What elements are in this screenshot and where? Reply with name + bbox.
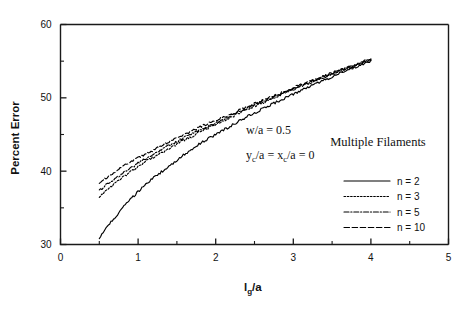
- data-curve: [99, 60, 371, 239]
- y-axis-title: Percent Error: [9, 101, 21, 175]
- legend-group: Multiple Filamentsn = 2n = 3n = 5n = 10: [330, 135, 426, 233]
- legend-title: Multiple Filaments: [330, 135, 426, 149]
- x-tick-label: 3: [291, 252, 297, 263]
- y-tick-label: 50: [40, 92, 52, 103]
- figure-container: 01234530405060 Multiple Filamentsn = 2n …: [0, 0, 457, 311]
- x-tick-label: 5: [446, 252, 452, 263]
- chart-canvas: 01234530405060 Multiple Filamentsn = 2n …: [0, 0, 457, 311]
- annotation-yc-xc: yc/a = xc/a = 0: [246, 148, 314, 163]
- annotation-w-over-a: w/a = 0.5: [246, 123, 291, 138]
- legend-entry-label: n = 10: [397, 222, 426, 233]
- x-tick-label: 2: [213, 252, 219, 263]
- legend-entry-label: n = 5: [397, 207, 420, 218]
- y-tick-label: 60: [40, 19, 52, 30]
- x-tick-label: 1: [135, 252, 141, 263]
- y-tick-label: 30: [40, 239, 52, 250]
- x-axis-title: lg/a: [244, 281, 262, 293]
- y-tick-label: 40: [40, 166, 52, 177]
- x-tick-label: 0: [58, 252, 64, 263]
- x-tick-label: 4: [368, 252, 374, 263]
- data-curve: [99, 59, 371, 197]
- y-axis-title-group: Percent Error: [9, 101, 21, 175]
- legend-entry-label: n = 2: [397, 176, 420, 187]
- legend-entry-label: n = 3: [397, 191, 420, 202]
